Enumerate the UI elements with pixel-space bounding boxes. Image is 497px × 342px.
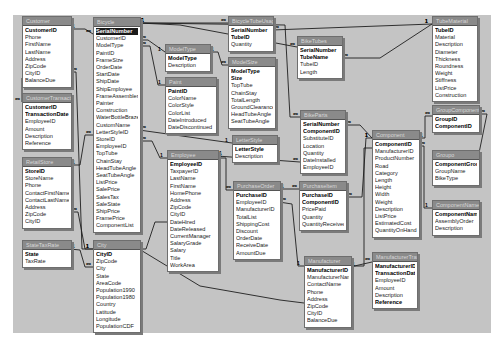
field[interactable]: CityID: [170, 211, 216, 218]
table-bikeparts[interactable]: BikePartsSerialNumberComponentIDSubstitu…: [300, 110, 346, 174]
field[interactable]: FramePrice: [96, 215, 138, 222]
table-tubematerial[interactable]: TubeMaterialTubeIDMaterialDescriptionDia…: [432, 16, 478, 102]
field-list[interactable]: SerialNumberTubeNameTubeIDLength: [298, 46, 342, 78]
field[interactable]: FrameAssembler: [96, 93, 138, 100]
primary-key-field[interactable]: CustomerID: [25, 27, 69, 34]
primary-key-field[interactable]: SerialNumber: [96, 28, 138, 35]
table-groupcomponents[interactable]: GroupComponentsGroupIDComponentID: [432, 105, 480, 133]
field[interactable]: Title: [170, 255, 216, 262]
table-title[interactable]: PurchaseOrder: [234, 182, 280, 191]
field[interactable]: Population1990: [96, 287, 138, 294]
field[interactable]: PricePaid: [302, 206, 344, 213]
field[interactable]: Width: [375, 191, 417, 198]
field[interactable]: Latitude: [96, 309, 138, 316]
field[interactable]: Height: [375, 184, 417, 191]
primary-key-field[interactable]: SerialNumber: [231, 27, 271, 34]
field[interactable]: WorkArea: [170, 262, 216, 269]
table-componentname[interactable]: ComponentNameComponentNameAssemblyOrderD…: [432, 200, 480, 236]
field[interactable]: ZipCode: [170, 204, 216, 211]
field[interactable]: CityID: [307, 310, 349, 317]
table-title[interactable]: ComponentName: [433, 201, 479, 210]
field[interactable]: HomePhone: [170, 190, 216, 197]
field[interactable]: StoreID: [96, 136, 138, 143]
table-title[interactable]: LetterStyle: [233, 136, 277, 145]
field[interactable]: Category: [375, 170, 417, 177]
primary-key-field[interactable]: ManufacturerID: [375, 263, 415, 270]
field[interactable]: OrderDate: [96, 64, 138, 71]
field[interactable]: DateHired: [170, 219, 216, 226]
field[interactable]: QuantityOnHand: [375, 227, 417, 234]
field[interactable]: SeatTubeAngle: [96, 172, 138, 179]
field[interactable]: QuantityReceived: [302, 221, 344, 228]
field-list[interactable]: ComponentNameAssemblyOrderDescription: [433, 210, 479, 235]
field[interactable]: ComponentList: [96, 222, 138, 229]
primary-key-field[interactable]: ManufacturerID: [307, 267, 349, 274]
field-list[interactable]: ManufacturerIDManufacturerNameContactNam…: [305, 266, 351, 327]
field[interactable]: Weight: [435, 70, 475, 77]
field-list[interactable]: GroupIDComponentID: [433, 115, 479, 132]
field[interactable]: ZipCode: [25, 211, 69, 218]
field[interactable]: BalanceDue: [25, 77, 69, 84]
field[interactable]: Discount: [236, 228, 278, 235]
field[interactable]: Location: [303, 143, 343, 150]
field[interactable]: Length: [375, 177, 417, 184]
primary-key-field[interactable]: ComponentID: [435, 123, 477, 130]
field[interactable]: Description: [435, 41, 475, 48]
table-bicycletubeusage[interactable]: BicycleTubeUsageSerialNumberTubeIDQuanti…: [228, 16, 274, 52]
table-title[interactable]: CustomerTransaction: [23, 94, 71, 103]
field[interactable]: EmployeeID: [96, 143, 138, 150]
table-title[interactable]: PurchaseItem: [300, 182, 346, 191]
primary-key-field[interactable]: ComponentName: [435, 211, 477, 218]
field[interactable]: ZipCode: [307, 303, 349, 310]
field[interactable]: Quantity: [231, 41, 271, 48]
field[interactable]: TotalList: [236, 214, 278, 221]
table-title[interactable]: Employee: [168, 151, 218, 160]
field[interactable]: Longitude: [96, 316, 138, 323]
primary-key-field[interactable]: PaintID: [168, 88, 214, 95]
primary-key-field[interactable]: CustomerID: [25, 104, 69, 111]
table-title[interactable]: City: [94, 241, 140, 250]
field-list[interactable]: CityIDZipCodeCityStateAreaCodePopulation…: [94, 250, 140, 332]
table-title[interactable]: ModelSize: [229, 58, 275, 67]
field[interactable]: ListPrice: [375, 213, 417, 220]
field-list[interactable]: ModelTypeDescription: [166, 54, 210, 71]
table-retailstore[interactable]: RetailStoreStoreIDStoreNamePhoneContactF…: [22, 157, 72, 229]
table-title[interactable]: ModelType: [166, 45, 210, 54]
primary-key-field[interactable]: CityID: [96, 251, 138, 258]
field[interactable]: Construction: [435, 92, 475, 99]
table-paint[interactable]: PaintPaintIDColorNameColorStyleColorList…: [165, 77, 217, 134]
table-employee[interactable]: EmployeeEmployeeIDTaxpayerIDLastNameFirs…: [167, 150, 219, 272]
table-biketubes[interactable]: BikeTubesSerialNumberTubeNameTubeIDLengt…: [297, 36, 343, 79]
field[interactable]: EstimatedCost: [375, 220, 417, 227]
field[interactable]: CustomName: [96, 122, 138, 129]
field-list[interactable]: ManufacturerIDTransactionDateEmployeeIDA…: [373, 262, 417, 308]
primary-key-field[interactable]: ComponentID: [302, 199, 344, 206]
field[interactable]: AmountDue: [236, 250, 278, 257]
field[interactable]: HeadTubeAngle: [96, 165, 138, 172]
field-list[interactable]: SerialNumberComponentIDSubstituteIDLocat…: [301, 120, 345, 173]
field[interactable]: ChainStay: [231, 90, 273, 97]
primary-key-field[interactable]: ComponentID: [303, 128, 343, 135]
field[interactable]: Painter: [96, 100, 138, 107]
field[interactable]: ColorStyle: [168, 102, 214, 109]
primary-key-field[interactable]: TubeID: [231, 34, 271, 41]
primary-key-field[interactable]: ComponentGroupID: [435, 161, 477, 168]
field[interactable]: CityID: [25, 70, 69, 77]
field[interactable]: TopTube: [231, 82, 273, 89]
table-letterstyle[interactable]: LetterStyleLetterStyleDescription: [232, 135, 278, 163]
primary-key-field[interactable]: Size: [231, 75, 273, 82]
field[interactable]: SalePrice: [96, 186, 138, 193]
field-list[interactable]: PaintIDColorNameColorStyleColorListDateI…: [166, 87, 216, 133]
field[interactable]: EmployeeID: [375, 277, 415, 284]
field[interactable]: SeatTubeAngle: [231, 118, 273, 125]
table-purchaseorder[interactable]: PurchaseOrderPurchaseIDEmployeeIDManufac…: [233, 181, 281, 260]
field[interactable]: EmployeeID: [303, 164, 343, 171]
field-list[interactable]: LetterStyleDescription: [233, 145, 277, 162]
field[interactable]: ManufacturerID: [236, 206, 278, 213]
field[interactable]: Construction: [96, 107, 138, 114]
field[interactable]: Weight: [375, 199, 417, 206]
field[interactable]: ListPrice: [435, 85, 475, 92]
field[interactable]: ContactName: [307, 281, 349, 288]
field[interactable]: LastName: [25, 49, 69, 56]
field[interactable]: SalesTax: [96, 194, 138, 201]
